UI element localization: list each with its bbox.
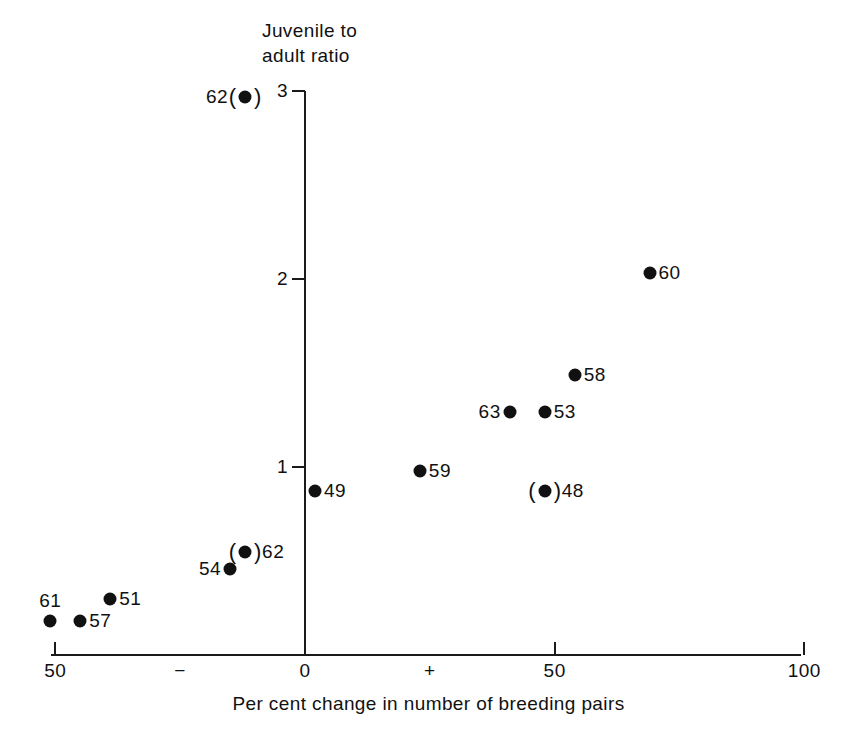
x-tick-label-50: 50	[44, 660, 66, 682]
x-tick-label-+: +	[424, 660, 436, 682]
y-axis-title: Juvenile to adult ratio	[262, 18, 357, 68]
x-tick-label-0: 0	[299, 660, 310, 682]
data-point-label-53-4: 53	[554, 401, 576, 423]
data-point-label-59-5: 59	[429, 460, 451, 482]
data-point-48[interactable]	[538, 485, 551, 498]
data-point-61[interactable]	[44, 615, 57, 628]
data-point-label-63-3: 63	[479, 401, 501, 423]
x-tick-label-−: −	[174, 660, 186, 682]
data-point-label-54-9: 54	[199, 558, 221, 580]
data-point-label-57-11: 57	[89, 610, 111, 632]
data-point-label-49-6: 49	[324, 480, 346, 502]
x-axis-line	[51, 654, 801, 656]
data-point-58[interactable]	[568, 368, 581, 381]
y-tick-mark-2	[292, 278, 305, 280]
data-point-54[interactable]	[224, 562, 237, 575]
y-axis-line	[304, 91, 306, 656]
data-point-53[interactable]	[538, 406, 551, 419]
data-point-59[interactable]	[413, 464, 426, 477]
x-tick-mark-50	[554, 642, 556, 655]
x-tick-label-50: 50	[544, 660, 566, 682]
x-tick-mark-0	[304, 642, 306, 655]
data-point-63[interactable]	[503, 406, 516, 419]
data-point-62[interactable]	[239, 545, 252, 558]
y-tick-label-2: 2	[277, 268, 288, 290]
x-axis-title: Per cent change in number of breeding pa…	[0, 693, 857, 715]
data-point-60[interactable]	[643, 267, 656, 280]
data-point-51[interactable]	[104, 592, 117, 605]
data-point-57[interactable]	[74, 615, 87, 628]
y-tick-mark-3	[292, 90, 305, 92]
data-point-label-58-2: 58	[584, 364, 606, 386]
y-tick-label-1: 1	[277, 456, 288, 478]
data-point-label-62-8: 62	[262, 541, 284, 563]
data-point-label-62-0: 62	[206, 86, 228, 108]
data-point-label-48-7: 48	[562, 480, 584, 502]
y-tick-label-3: 3	[277, 80, 288, 102]
scatter-plot-figure: Juvenile to adult ratio 123 50−0+50100 (…	[0, 0, 857, 738]
data-point-49[interactable]	[308, 485, 321, 498]
x-tick-mark-100	[803, 642, 805, 655]
data-point-label-60-1: 60	[659, 262, 681, 284]
data-point-62[interactable]	[239, 90, 252, 103]
data-point-label-51-10: 51	[119, 588, 141, 610]
data-point-label-61-12: 61	[39, 590, 61, 612]
x-tick-mark-50	[54, 642, 56, 655]
x-tick-label-100: 100	[788, 660, 821, 682]
y-tick-mark-1	[292, 466, 305, 468]
